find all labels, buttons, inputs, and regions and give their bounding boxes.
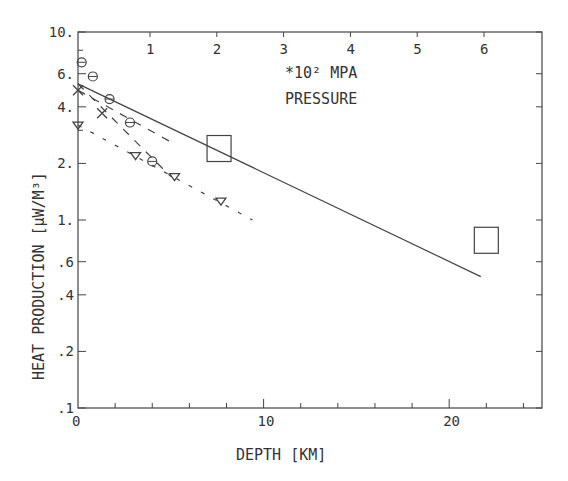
top-tick-label: 3: [280, 41, 288, 57]
x-tick-label: 20: [443, 413, 460, 429]
triangle-marker: [131, 153, 141, 160]
plot-border: [78, 32, 542, 408]
x-axis-label: DEPTH [KM]: [236, 446, 326, 464]
top-tick-label: 4: [346, 41, 354, 57]
x-marker: [97, 108, 107, 118]
pressure-unit-label: *10² MPA: [285, 64, 357, 82]
y-tick-label: .2: [57, 343, 74, 359]
axis-ticks: [78, 32, 542, 408]
pressure-label: PRESSURE: [285, 90, 357, 108]
fit-line: [78, 84, 481, 277]
y-tick-label: .6: [57, 254, 74, 270]
square-marker: [474, 227, 498, 253]
square-marker: [207, 136, 231, 162]
y-tick-label: 6.: [57, 66, 74, 82]
x-tick-label: 10: [258, 413, 275, 429]
chart: 0102012345610.6.4.2.1..6.4.2.1 DEPTH [KM…: [0, 0, 568, 481]
triangle-marker: [216, 198, 226, 205]
plot-frame: [78, 32, 542, 408]
data-markers: [73, 58, 498, 253]
y-tick-label: 1.: [57, 212, 74, 228]
top-tick-label: 6: [480, 41, 488, 57]
top-tick-label: 5: [413, 41, 421, 57]
fit-lines: [78, 84, 481, 277]
y-tick-label: .4: [57, 287, 74, 303]
y-tick-label: .1: [57, 400, 74, 416]
axis-labels: 0102012345610.6.4.2.1..6.4.2.1: [49, 24, 489, 429]
y-axis-label: HEAT PRODUCTION [µW/M³]: [30, 172, 48, 380]
y-tick-label: 2.: [57, 155, 74, 171]
top-tick-label: 2: [213, 41, 221, 57]
y-tick-label: 4.: [57, 99, 74, 115]
top-tick-label: 1: [146, 41, 154, 57]
y-tick-label: 10.: [49, 24, 74, 40]
